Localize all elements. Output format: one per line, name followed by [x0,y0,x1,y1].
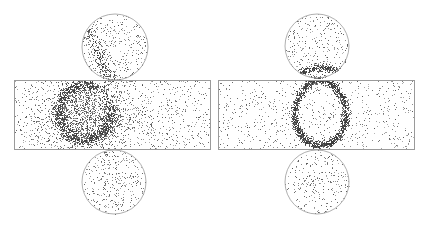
left-channel-rect [15,81,211,150]
figure [0,0,427,228]
right-channel-rect [219,81,415,150]
right-panel [219,14,415,214]
left-panel [15,14,211,214]
right-bottom-cylinder [285,150,349,214]
geometry-outlines [0,0,427,228]
left-top-cylinder [82,14,148,80]
right-top-cylinder [285,14,349,78]
left-bottom-cylinder [82,150,146,214]
